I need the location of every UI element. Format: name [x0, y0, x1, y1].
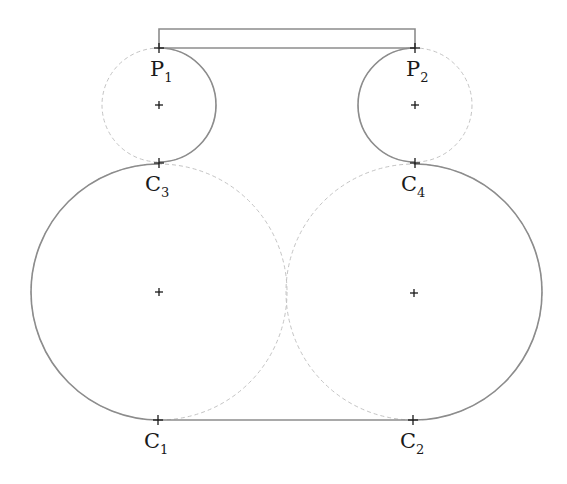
label-p2: P2: [406, 57, 428, 85]
marker-large-left-center: [155, 288, 163, 296]
top-bar: [159, 29, 415, 47]
marker-p2: [410, 43, 420, 53]
marker-small-left-center: [155, 101, 163, 109]
label-c2: C2: [400, 429, 424, 457]
large-arc-left: [31, 164, 159, 420]
marker-large-right-center: [410, 289, 418, 297]
marker-c4: [410, 158, 420, 168]
marker-p1: [154, 43, 164, 53]
label-c3: C3: [145, 172, 169, 200]
marker-c3: [154, 158, 164, 168]
label-c1: C1: [144, 429, 168, 457]
label-c4: C4: [401, 172, 425, 200]
small-arc-left: [159, 48, 216, 162]
four-circle-diagram: P1 P2 C3 C4 C1 C2: [0, 0, 567, 484]
marker-c1: [153, 415, 163, 425]
label-p1: P1: [150, 57, 172, 85]
marker-c2: [408, 415, 418, 425]
marker-small-right-center: [411, 101, 419, 109]
large-arc-right: [414, 164, 542, 420]
